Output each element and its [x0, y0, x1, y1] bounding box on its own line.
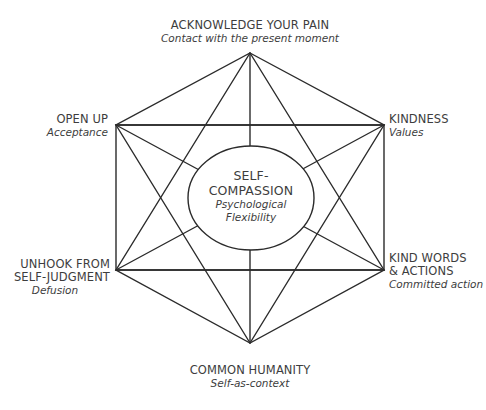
node-subtitle: Defusion [0, 284, 110, 296]
node-acknowledge-your-pain: ACKNOWLEDGE YOUR PAIN Contact with the p… [150, 19, 350, 44]
node-kind-words-actions: KIND WORDS & ACTIONS Committed action [389, 252, 484, 291]
node-title: ACKNOWLEDGE YOUR PAIN [150, 19, 350, 32]
node-subtitle: Self-as-context [150, 377, 350, 389]
node-unhook-from-self-judgment: UNHOOK FROM SELF-JUDGMENT Defusion [0, 258, 110, 297]
node-title: OPEN UP [20, 113, 108, 126]
center-self-compassion: SELF- COMPASSION Psychological Flexibili… [190, 168, 312, 224]
node-title: COMMON HUMANITY [150, 364, 350, 377]
node-subtitle: Contact with the present moment [150, 32, 350, 44]
node-title: KINDNESS [389, 113, 479, 126]
node-subtitle: Values [389, 126, 479, 138]
center-subtitle-line2: Flexibility [190, 211, 312, 224]
center-subtitle-line1: Psychological [190, 198, 312, 211]
node-title-line2: & ACTIONS [389, 265, 484, 278]
node-common-humanity: COMMON HUMANITY Self-as-context [150, 364, 350, 389]
node-title-line2: SELF-JUDGMENT [0, 271, 110, 284]
node-subtitle: Acceptance [20, 126, 108, 138]
node-open-up: OPEN UP Acceptance [20, 113, 108, 138]
center-title-line1: SELF- [190, 168, 312, 183]
node-kindness: KINDNESS Values [389, 113, 479, 138]
node-subtitle: Committed action [389, 278, 484, 290]
center-title-line2: COMPASSION [190, 183, 312, 198]
